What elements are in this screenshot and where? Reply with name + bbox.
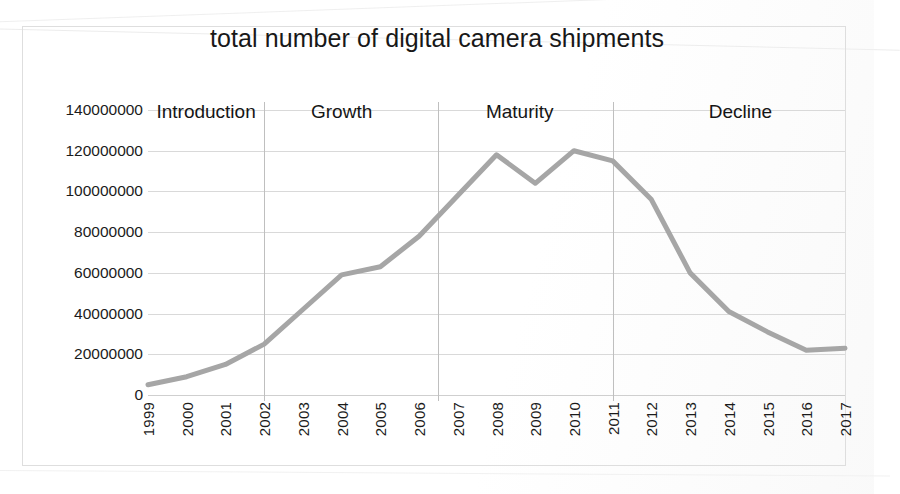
- x-tick-label: 2004: [333, 402, 350, 436]
- plot-area: 0200000004000000060000000800000001000000…: [148, 110, 845, 395]
- y-tick-label: 40000000: [23, 305, 143, 323]
- y-tick-label: 20000000: [23, 345, 143, 363]
- scan-artifact-line: [0, 470, 890, 476]
- x-tick-label: 2007: [449, 402, 466, 436]
- x-tick-label: 2016: [798, 402, 815, 436]
- x-tick-label: 2013: [682, 402, 699, 436]
- x-tick-label: 2008: [488, 402, 505, 436]
- x-tick-label: 2003: [294, 402, 311, 436]
- x-tick-label: 2010: [565, 402, 582, 436]
- y-tick-label: 120000000: [23, 142, 143, 160]
- x-tick-label: 2002: [256, 402, 273, 436]
- x-tick-label: 2000: [178, 402, 195, 436]
- x-tick-label: 2012: [643, 402, 660, 436]
- series-line-shipments: [148, 110, 845, 395]
- x-tick-label: 2014: [720, 402, 737, 436]
- chart-title: total number of digital camera shipments: [0, 24, 874, 53]
- y-tick-label: 140000000: [23, 101, 143, 119]
- y-tick-label: 100000000: [23, 182, 143, 200]
- x-tick-label: 2005: [372, 402, 389, 436]
- x-tick-label: 2006: [411, 402, 428, 436]
- x-tick-label: 2001: [217, 402, 234, 436]
- scan-artifact-line: [0, 0, 899, 23]
- y-tick-label: 60000000: [23, 264, 143, 282]
- y-tick-label: 80000000: [23, 223, 143, 241]
- x-tick-label: 2011: [604, 402, 621, 435]
- y-tick-label: 0: [23, 386, 143, 404]
- x-tick-label: 2015: [759, 402, 776, 436]
- x-tick-label: 1999: [140, 402, 157, 436]
- x-tick-label: 2017: [837, 402, 854, 436]
- gridline-y-0: [148, 395, 845, 396]
- x-tick-label: 2009: [527, 402, 544, 436]
